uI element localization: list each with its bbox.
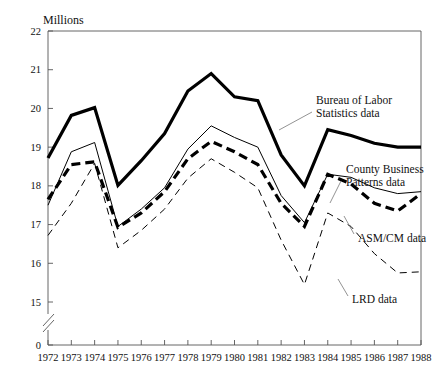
y-tick-label: 16: [31, 258, 42, 269]
x-tick-label: 1974: [84, 352, 106, 363]
x-tick-label: 1973: [61, 352, 82, 363]
x-tick-label: 1975: [107, 352, 128, 363]
bls-label-line-1: Bureau of Labor: [316, 94, 392, 106]
lrd-label-line-1: LRD data: [352, 293, 397, 305]
cbp-label-line-2: Patterns data: [346, 176, 405, 188]
y-axis-ticks: 01516171819202122: [31, 26, 54, 351]
y-tick-label: 15: [31, 297, 42, 308]
bls-label-line-2: Statistics data: [316, 107, 380, 119]
x-tick-label: 1984: [317, 352, 339, 363]
x-tick-label: 1972: [38, 352, 59, 363]
x-tick-label: 1976: [131, 352, 152, 363]
y-tick-label: 21: [31, 64, 42, 75]
x-tick-label: 1986: [364, 352, 385, 363]
annotation-labels: Bureau of LaborStatistics dataCounty Bus…: [316, 94, 426, 305]
y-tick-label: 22: [31, 26, 42, 37]
x-tick-label: 1983: [294, 352, 315, 363]
x-tick-label: 1981: [247, 352, 268, 363]
x-tick-label: 1987: [387, 352, 408, 363]
annotation-leader-lines: [279, 112, 354, 296]
y-tick-label: 0: [36, 340, 41, 351]
y-axis-unit-label: Millions: [43, 13, 84, 27]
x-tick-label: 1985: [341, 352, 362, 363]
x-tick-label: 1977: [154, 352, 175, 363]
x-tick-label: 1978: [177, 352, 198, 363]
x-tick-label: 1980: [224, 352, 245, 363]
x-tick-label: 1979: [201, 352, 222, 363]
asmcm-label-line-1: ASM/CM data: [358, 232, 426, 244]
y-tick-label: 18: [31, 180, 42, 191]
x-tick-label: 1982: [271, 352, 292, 363]
y-tick-label: 20: [31, 103, 42, 114]
y-tick-label: 19: [31, 142, 42, 153]
x-tick-label: 1988: [411, 352, 432, 363]
x-axis-ticks: 1972197319741975197619771978197919801981…: [38, 340, 432, 363]
cbp-label-line-1: County Business: [346, 163, 424, 176]
line-chart: 01516171819202122 1972197319741975197619…: [0, 0, 447, 385]
y-tick-label: 17: [31, 219, 42, 230]
chart-container: 01516171819202122 1972197319741975197619…: [0, 0, 447, 385]
